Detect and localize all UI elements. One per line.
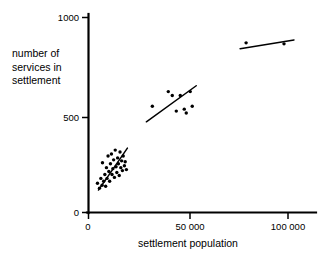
x-tick-label-100000: 100 000: [271, 221, 305, 232]
series-group: [240, 40, 294, 49]
data-point: [108, 180, 111, 183]
trend-line: [240, 40, 294, 49]
x-axis-title: settlement population: [88, 237, 288, 249]
data-point: [123, 164, 126, 167]
y-tick-label-500: 500: [63, 112, 79, 123]
data-point: [115, 171, 118, 174]
data-point: [121, 169, 124, 172]
y-tick-label-0: 0: [74, 207, 79, 218]
data-point: [118, 174, 121, 177]
y-axis-title-line-2: services in: [12, 61, 84, 75]
data-point: [110, 152, 113, 155]
data-series-layer: [96, 40, 294, 190]
data-point: [104, 184, 107, 187]
data-point: [102, 180, 105, 183]
x-tick-label-0: 0: [85, 221, 90, 232]
data-point: [244, 41, 247, 44]
data-point: [105, 177, 108, 180]
data-point: [282, 42, 285, 45]
data-point: [109, 162, 112, 165]
data-point: [124, 160, 127, 163]
data-point: [116, 156, 119, 159]
data-point: [125, 168, 128, 171]
data-point: [119, 166, 122, 169]
data-point: [189, 90, 192, 93]
data-point: [111, 167, 114, 170]
data-point: [191, 105, 194, 108]
data-point: [113, 176, 116, 179]
data-point: [179, 94, 182, 97]
data-point: [117, 162, 120, 165]
x-axis-ticks: [89, 213, 289, 219]
data-point: [118, 150, 121, 153]
data-point: [171, 94, 174, 97]
data-point: [114, 165, 117, 168]
data-point: [98, 186, 101, 189]
data-point: [167, 90, 170, 93]
data-point: [105, 166, 108, 169]
y-axis-title-line-3: settlement: [12, 74, 84, 88]
data-point: [107, 170, 110, 173]
data-point: [185, 111, 188, 114]
scatter-chart: 1000 500 0 0 50 000 100 000 number of se…: [0, 0, 325, 263]
y-axis-title-line-1: number of: [12, 47, 84, 61]
data-point: [101, 161, 104, 164]
data-point: [100, 184, 103, 187]
y-tick-label-1000: 1000: [58, 12, 79, 23]
data-point: [122, 154, 125, 157]
data-point: [183, 107, 186, 110]
plot-area: 1000 500 0 0 50 000 100 000: [0, 0, 325, 263]
data-point: [175, 109, 178, 112]
data-point: [112, 158, 115, 161]
series-group: [146, 86, 196, 122]
data-point: [106, 154, 109, 157]
data-point: [103, 173, 106, 176]
x-tick-label-50000: 50 000: [175, 221, 204, 232]
y-axis-title: number of services in settlement: [12, 47, 84, 88]
data-point: [99, 177, 102, 180]
data-point: [96, 182, 99, 185]
data-point: [110, 173, 113, 176]
data-point: [120, 159, 123, 162]
series-group: [96, 148, 128, 190]
data-point: [151, 105, 154, 108]
data-point: [114, 148, 117, 151]
